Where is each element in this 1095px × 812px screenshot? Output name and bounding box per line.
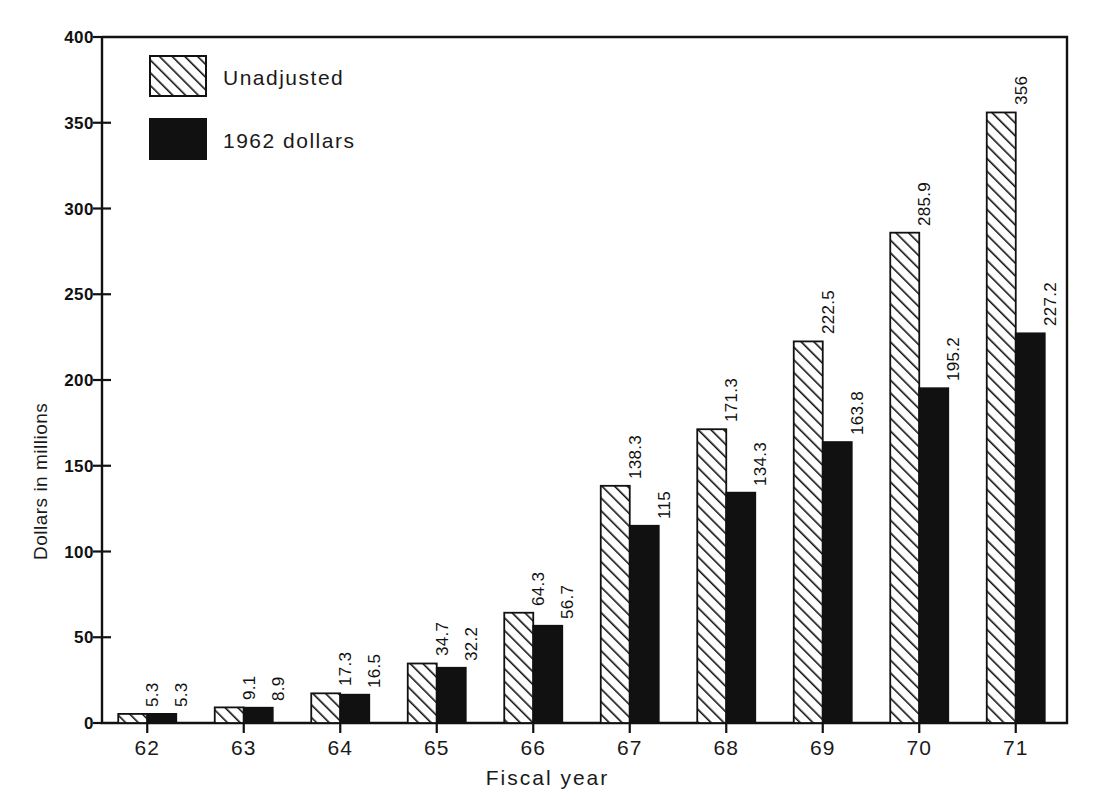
bar-value-label: 5.3 bbox=[172, 682, 192, 707]
x-axis-label: Fiscal year bbox=[0, 766, 1095, 790]
bar-value-label: 227.2 bbox=[1041, 282, 1061, 326]
bar-value-label: 115 bbox=[655, 491, 675, 519]
bar-value-label: 195.2 bbox=[944, 337, 964, 381]
bar-value-label: 134.3 bbox=[751, 442, 771, 486]
bar-value-label: 138.3 bbox=[626, 435, 646, 479]
bar-value-label: 222.5 bbox=[819, 290, 839, 334]
bar-chart: Unadjusted 1962 dollars Dollars in milli… bbox=[0, 0, 1095, 812]
bar-value-label: 32.2 bbox=[462, 626, 482, 660]
bar-value-label: 17.3 bbox=[336, 652, 356, 686]
bar-value-label: 56.7 bbox=[558, 584, 578, 618]
bar-value-label: 9.1 bbox=[240, 676, 260, 701]
bar-value-label: 5.3 bbox=[143, 682, 163, 707]
bar-value-label: 163.8 bbox=[848, 391, 868, 435]
bar-value-label: 285.9 bbox=[915, 182, 935, 226]
bar-value-label: 171.3 bbox=[722, 378, 742, 422]
bar-value-label: 64.3 bbox=[529, 571, 549, 605]
bar-value-label: 34.7 bbox=[433, 622, 453, 656]
bar-value-label: 8.9 bbox=[269, 676, 289, 701]
bar-value-label: 16.5 bbox=[365, 653, 385, 687]
bar-value-labels: 5.35.39.18.917.316.534.732.264.356.7138.… bbox=[0, 0, 1095, 812]
bar-value-label: 356 bbox=[1012, 76, 1032, 105]
